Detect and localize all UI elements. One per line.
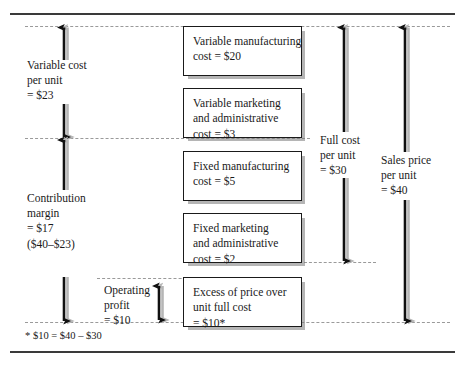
frame-rule-bottom — [10, 351, 455, 353]
box-variable-manufacturing-cost: Variable manufacturing cost = $20 — [183, 26, 302, 76]
figure-canvas: Variable manufacturing cost = $20 Variab… — [0, 0, 464, 368]
box-line: cost = $2 — [193, 252, 292, 267]
label-contribution-margin: Contribution margin = $17 ($40–$23) — [27, 191, 86, 252]
label-line: Operating — [104, 283, 150, 298]
box-line: Fixed marketing — [193, 221, 292, 236]
arrow-operating-profit — [159, 286, 163, 320]
box-excess-of-price-over-unit-full-cost: Excess of price over unit full cost = $1… — [183, 277, 302, 327]
label-line: Full cost — [320, 133, 360, 148]
box-line: and administrative — [193, 111, 292, 126]
label-line: = $30 — [320, 163, 360, 178]
label-line: profit — [104, 298, 150, 313]
label-line: = $10 — [104, 313, 150, 328]
label-line: per unit — [381, 168, 431, 183]
label-line: Contribution — [27, 191, 86, 206]
figure-footnote: * $10 = $40 – $30 — [25, 330, 102, 341]
box-line: and administrative — [193, 236, 292, 251]
label-line: = $23 — [27, 88, 87, 103]
box-line: cost = $20 — [193, 49, 292, 64]
frame-rule-top — [10, 13, 455, 15]
label-operating-profit: Operating profit = $10 — [104, 283, 150, 329]
label-line: per unit — [320, 148, 360, 163]
box-line: cost = $5 — [193, 174, 292, 189]
label-line: per unit — [27, 73, 87, 88]
box-line: Excess of price over — [193, 285, 292, 300]
box-fixed-marketing-admin-cost: Fixed marketing and administrative cost … — [183, 213, 302, 263]
box-line: cost = $3 — [193, 127, 292, 142]
label-line: ($40–$23) — [27, 237, 86, 252]
box-line: Variable marketing — [193, 96, 292, 111]
label-line: Sales price — [381, 153, 431, 168]
guide-line-full-cost-bottom — [304, 262, 376, 263]
box-line: = $10* — [193, 316, 292, 331]
label-line: margin — [27, 206, 86, 221]
box-line: Fixed manufacturing — [193, 159, 292, 174]
label-line: Variable cost — [27, 58, 87, 73]
box-line: Variable manufacturing — [193, 34, 292, 49]
box-variable-marketing-admin-cost: Variable marketing and administrative co… — [183, 88, 302, 138]
label-line: = $40 — [381, 183, 431, 198]
label-sales-price-per-unit: Sales price per unit = $40 — [381, 153, 431, 199]
label-line: = $17 — [27, 221, 86, 236]
box-fixed-manufacturing-cost: Fixed manufacturing cost = $5 — [183, 151, 302, 201]
label-full-cost-per-unit: Full cost per unit = $30 — [320, 133, 360, 179]
label-variable-cost-per-unit: Variable cost per unit = $23 — [27, 58, 87, 104]
box-line: unit full cost — [193, 300, 292, 315]
